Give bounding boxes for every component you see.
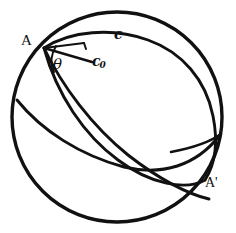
segment-label-c0-subscript: 0 <box>100 60 106 70</box>
angle-label-theta: θ <box>53 57 62 72</box>
angle-tick-mark <box>84 43 86 49</box>
sphere-outline-circle <box>12 12 222 222</box>
segment-label-c0: c0 <box>92 54 107 68</box>
curve-label-c: c <box>114 27 123 41</box>
point-label-A-prime: A' <box>205 176 218 190</box>
great-circle-through-A-path <box>44 48 209 199</box>
point-label-A: A <box>21 33 32 48</box>
geometry-figure: A c c0 θ A' <box>0 0 236 233</box>
